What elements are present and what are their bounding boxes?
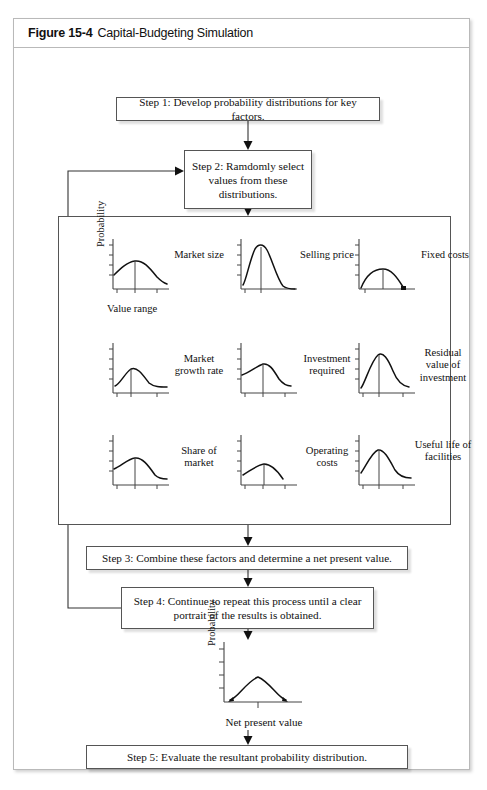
chart-cell-residual-value: Residual value of investment (349, 337, 473, 427)
step-2-box: Step 2: Ramdomly select values from thes… (184, 150, 312, 209)
step-1-text: Step 1: Develop probability distribution… (123, 95, 373, 123)
step-1-box: Step 1: Develop probability distribution… (116, 97, 380, 121)
figure-number: Figure 15-4 (28, 26, 93, 40)
distribution-chart-operating-costs (233, 433, 299, 495)
step-2-text: Step 2: Ramdomly select values from thes… (191, 159, 305, 201)
distribution-chart-net-present-value (214, 640, 306, 716)
distribution-chart-share-of-market (105, 433, 171, 495)
factor-label-market-growth-rate: Market growth rate (171, 353, 227, 378)
distribution-chart-useful-life-of-facilities (351, 433, 417, 495)
step-5-box: Step 5: Evaluate the resultant probabili… (86, 745, 408, 769)
step-3-box: Step 3: Combine these factors and determ… (86, 546, 408, 570)
distribution-chart-investment-required (233, 341, 299, 403)
chart-cell-operating-costs: Operating costs (231, 429, 355, 519)
distribution-chart-market-growth-rate (105, 341, 171, 403)
value-range-axis-label: Value range (107, 303, 157, 314)
factor-label-useful-life-of-facilities: Useful life of facilities (412, 439, 474, 464)
step-4-text: Step 4: Continue to repeat this process … (128, 594, 367, 622)
step-4-box: Step 4: Continue to repeat this process … (121, 587, 374, 629)
factor-label-market-size: Market size (171, 249, 227, 261)
factor-label-operating-costs: Operating costs (299, 445, 355, 470)
chart-cell-fixed-costs: Fixed costs (349, 233, 473, 323)
chart-cell-share-of-market: Share of market (103, 429, 227, 519)
net-present-value-axis-label: Net present value (206, 716, 322, 728)
distribution-chart-fixed-costs (351, 237, 417, 299)
factor-label-residual-value-of-investment: Residual value of investment (412, 347, 474, 384)
figure-frame: Figure 15-4 Capital-Budgeting Simulation (13, 18, 470, 770)
chart-cell-market-size: Probability Value range (103, 233, 227, 323)
chart-cell-investment-required: Investment required (231, 337, 355, 427)
distribution-chart-residual-value-of-investment (351, 341, 417, 403)
factor-label-selling-price: Selling price (299, 249, 355, 261)
figure-title: Capital-Budgeting Simulation (98, 26, 254, 40)
figure-caption-bar: Figure 15-4 Capital-Budgeting Simulation (14, 19, 469, 48)
step-3-text: Step 3: Combine these factors and determ… (102, 551, 392, 565)
chart-cell-market-growth-rate: Market growth rate (103, 337, 227, 427)
factor-label-investment-required: Investment required (299, 353, 355, 378)
net-present-value-chart: Probability Net present value (192, 640, 322, 740)
chart-cell-useful-life: Useful life of facilities (349, 429, 473, 519)
factor-label-share-of-market: Share of market (171, 445, 227, 470)
chart-cell-selling-price: Selling price (231, 233, 355, 323)
distribution-chart-market-size (105, 237, 171, 299)
distribution-chart-selling-price (233, 237, 299, 299)
flowchart-canvas: Step 1: Develop probability distribution… (14, 48, 469, 769)
factor-label-fixed-costs: Fixed costs (417, 249, 473, 261)
step-5-text: Step 5: Evaluate the resultant probabili… (127, 750, 367, 764)
distribution-panel: Probability Value range (58, 216, 451, 525)
